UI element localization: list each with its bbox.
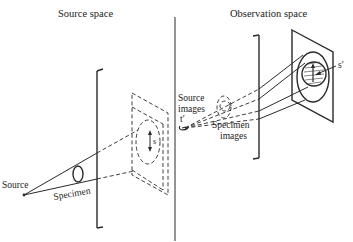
specimen-image-inner-circle — [220, 101, 230, 111]
optics-diagram: Source space Observation space Source Sp… — [0, 0, 353, 242]
specimen-label: Specimen — [53, 186, 92, 202]
specimen-plane-bracket — [97, 69, 103, 228]
specimen-images-label-line2: images — [220, 131, 247, 141]
source-label: Source — [2, 180, 28, 190]
ray-lower-dashed — [97, 171, 134, 179]
specimen-images-label-line1: Specimen — [212, 120, 250, 130]
central-dashed-ellipse — [136, 120, 160, 164]
solid-rays-to-screen — [259, 55, 308, 119]
observation-space-title: Observation space — [230, 8, 308, 19]
s-double-arrow — [148, 130, 152, 152]
s-prime-label: s′ — [338, 60, 344, 70]
source-space-title: Source space — [58, 8, 113, 19]
source-images-label-line2: images — [178, 104, 205, 114]
t-prime-label: t′ — [180, 114, 185, 124]
specimen-image-dashed-ellipse — [217, 96, 231, 118]
s-label: s — [153, 137, 156, 146]
source-images-label-line1: Source — [178, 93, 204, 103]
specimen-ellipse — [73, 166, 83, 182]
observation-plane-bracket — [253, 35, 259, 159]
